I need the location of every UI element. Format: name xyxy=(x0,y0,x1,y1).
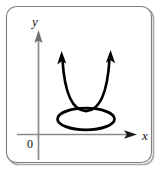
y-axis-label: y xyxy=(30,14,38,29)
x-axis-label: x xyxy=(141,128,148,143)
figure-graphic: y x 0 xyxy=(0,0,160,171)
origin-label: 0 xyxy=(27,137,33,151)
figure-container: y x 0 xyxy=(0,0,160,171)
